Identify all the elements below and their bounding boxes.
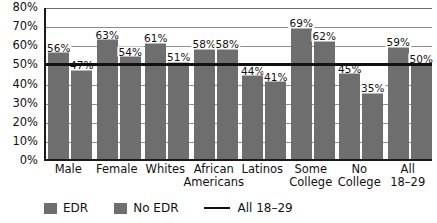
y-axis-tick-label: 70%: [12, 21, 38, 33]
bar: [48, 52, 69, 159]
x-axis-label: SomeCollege: [289, 163, 332, 188]
x-axis-label-line: Female: [96, 163, 138, 176]
x-axis-label-line: Americans: [183, 176, 244, 189]
bars-layer: 56%47%63%54%61%51%58%58%44%41%69%62%45%3…: [46, 8, 432, 159]
x-axis-label-line: 18–29: [390, 176, 425, 189]
y-axis-tick-label: 20%: [12, 117, 38, 129]
chart-legend: EDRNo EDRAll 18–29: [44, 198, 319, 218]
bar-chart: 0%10%20%30%40%50%60%70%80% 56%47%63%54%6…: [0, 0, 437, 223]
bar: [265, 81, 286, 159]
x-axis-label: Whites: [146, 163, 185, 176]
bar-value-label: 51%: [166, 52, 191, 63]
x-axis-label: All18–29: [390, 163, 425, 188]
x-axis-label-line: College: [338, 176, 381, 189]
bar: [145, 42, 166, 159]
legend-line-icon: [204, 207, 230, 209]
bar: [120, 56, 141, 159]
x-axis-label: NoCollege: [338, 163, 381, 188]
legend-label: No EDR: [133, 202, 178, 214]
y-axis-tick-label: 80%: [12, 2, 38, 14]
bar-value-label: 62%: [312, 31, 337, 42]
y-axis-tick-label: 40%: [12, 79, 38, 91]
bar-value-label: 58%: [215, 39, 240, 50]
legend-swatch-icon: [44, 203, 57, 214]
x-axis-category-labels: MaleFemaleWhitesAfricanAmericansLatinosS…: [44, 163, 432, 195]
legend-swatch-icon: [114, 203, 127, 214]
bar-value-label: 58%: [192, 39, 217, 50]
bar: [97, 39, 118, 159]
y-axis-tick-label: 50%: [12, 60, 38, 72]
legend-item[interactable]: EDR: [44, 202, 88, 214]
x-axis-label: Male: [55, 163, 82, 176]
bar: [168, 61, 189, 159]
x-axis-label-line: African: [183, 163, 244, 176]
x-axis-label: Latinos: [242, 163, 283, 176]
x-axis-label-line: Whites: [146, 163, 185, 176]
bar: [291, 27, 312, 159]
legend-label: All 18–29: [237, 202, 292, 214]
bar: [411, 63, 432, 159]
bar: [339, 73, 360, 159]
bar-value-label: 63%: [95, 29, 120, 40]
bar-value-label: 59%: [386, 37, 411, 48]
bar: [362, 92, 383, 159]
bar-value-label: 44%: [240, 65, 265, 76]
bar-value-label: 56%: [46, 42, 71, 53]
bar-value-label: 35%: [360, 83, 385, 94]
x-axis-label-line: Male: [55, 163, 82, 176]
legend-label: EDR: [63, 202, 88, 214]
legend-item[interactable]: All 18–29: [204, 202, 292, 214]
bar: [314, 40, 335, 159]
x-axis-label: Female: [96, 163, 138, 176]
x-axis-label: AfricanAmericans: [183, 163, 244, 188]
y-axis-tick-label: 0%: [20, 155, 38, 167]
x-axis-label-line: No: [338, 163, 381, 176]
bar: [242, 75, 263, 159]
y-axis-tick-label: 10%: [12, 136, 38, 148]
x-axis-label-line: Some: [289, 163, 332, 176]
bar-value-label: 61%: [143, 33, 168, 44]
x-axis-label-line: All: [390, 163, 425, 176]
y-axis-tick-label: 60%: [12, 41, 38, 53]
reference-line-all-18-29: [46, 63, 432, 66]
legend-item[interactable]: No EDR: [114, 202, 178, 214]
bar-value-label: 69%: [289, 18, 314, 29]
x-axis-label-line: College: [289, 176, 332, 189]
y-axis: 0%10%20%30%40%50%60%70%80%: [0, 8, 40, 161]
y-axis-tick-label: 30%: [12, 98, 38, 110]
x-axis-label-line: Latinos: [242, 163, 283, 176]
bar-value-label: 54%: [118, 46, 143, 57]
bar: [71, 69, 92, 159]
plot-area: 56%47%63%54%61%51%58%58%44%41%69%62%45%3…: [44, 8, 432, 161]
bar-value-label: 41%: [263, 71, 288, 82]
